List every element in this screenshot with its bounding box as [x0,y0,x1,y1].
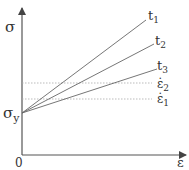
stress-strain-diagram: σ ε 0 σy t1 t2 t3 ε̇2 ε̇1 [0,0,189,170]
line-t1-label: t1 [148,8,159,25]
x-axis-label: ε [177,155,184,170]
yield-label: σy [3,104,20,125]
rate-1-label: ε̇1 [157,92,169,108]
line-t3 [22,69,157,113]
rate-2-label: ε̇2 [157,77,169,93]
origin-label: 0 [15,156,23,170]
line-t2 [22,44,154,113]
line-t3-label: t3 [157,58,168,75]
y-axis-label: σ [5,18,15,36]
line-t2-label: t2 [155,33,166,50]
